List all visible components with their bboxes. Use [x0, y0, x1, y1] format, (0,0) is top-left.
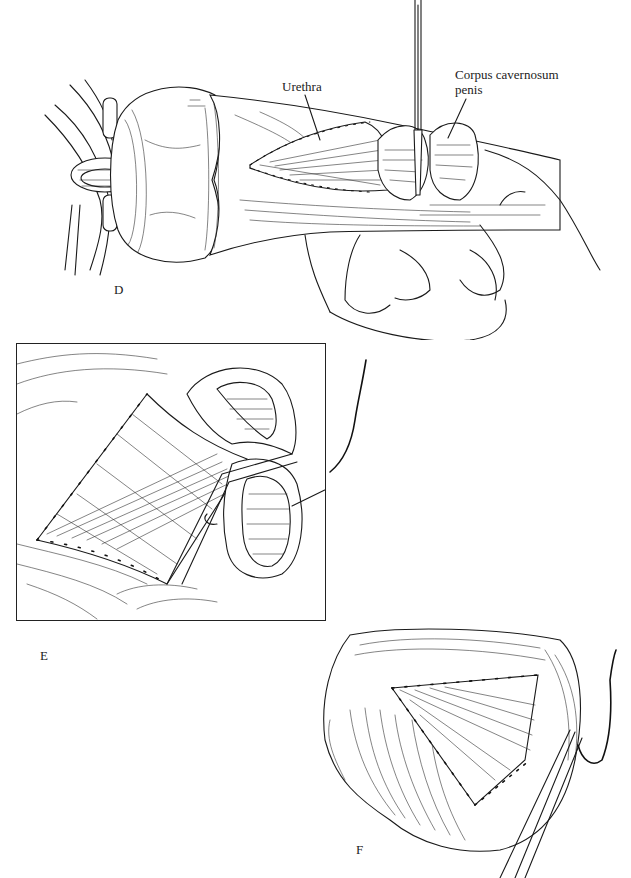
panel-letter-e: E — [40, 648, 48, 664]
panel-e-illustration — [17, 344, 326, 621]
panel-letter-d: D — [114, 282, 123, 298]
panel-letter-f: F — [356, 842, 363, 858]
panel-e-frame — [16, 343, 326, 621]
panel-f-illustration — [320, 620, 631, 878]
suture-thread-f — [578, 650, 616, 763]
panel-f: F — [320, 620, 631, 878]
corpus-leader-line — [0, 0, 631, 340]
panel-d: Urethra Corpus cavernosum penis D — [0, 0, 631, 340]
